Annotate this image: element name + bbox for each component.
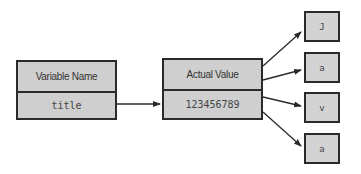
- char-box-4: a: [304, 133, 340, 164]
- char-box-3: v: [304, 92, 340, 123]
- char-box-1: J: [304, 11, 340, 42]
- variable-name-label: Variable Name: [18, 62, 115, 91]
- arrow-to-char-4: [263, 112, 301, 146]
- char-box-2: a: [304, 52, 340, 83]
- actual-value-value: 123456789: [164, 91, 261, 118]
- variable-name-value: title: [18, 93, 115, 118]
- value-box: Actual Value 123456789: [162, 58, 263, 120]
- arrow-to-char-1: [263, 32, 301, 66]
- actual-value-label: Actual Value: [164, 60, 261, 89]
- arrow-to-char-3: [263, 97, 301, 106]
- variable-box: Variable Name title: [16, 60, 117, 120]
- arrow-to-char-2: [263, 70, 301, 80]
